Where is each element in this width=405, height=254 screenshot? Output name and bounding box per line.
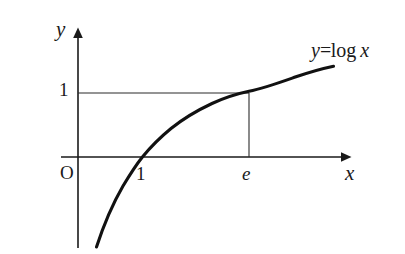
equation-argument: x	[360, 39, 369, 61]
x-axis-label: x	[345, 163, 354, 184]
log-function-figure: y x O 1 e 1 y=logx	[0, 0, 405, 254]
equation-function-name: log	[331, 39, 357, 61]
x-tick-label-e: e	[242, 164, 250, 183]
x-axis	[61, 152, 352, 162]
y-axis-label: y	[56, 19, 65, 40]
y-axis	[73, 28, 83, 249]
y-tick-label-1: 1	[59, 80, 69, 99]
equation-equals-sign: =	[320, 39, 331, 61]
equation-lhs: y	[311, 39, 320, 61]
origin-label: O	[60, 163, 74, 182]
curve-equation-label: y=logx	[311, 40, 369, 60]
y-axis-arrowhead	[73, 28, 83, 39]
x-tick-label-1: 1	[136, 164, 146, 183]
